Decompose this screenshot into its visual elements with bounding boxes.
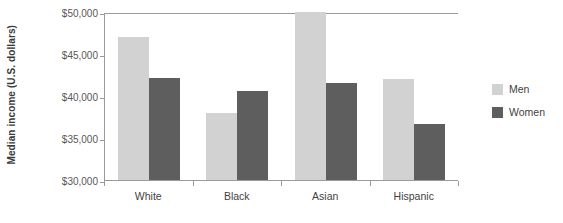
y-axis-tick-mark <box>100 140 105 141</box>
bar-black-men <box>206 113 237 180</box>
bar-white-men <box>118 37 149 180</box>
legend-swatch-men <box>492 84 503 95</box>
bar-black-women <box>237 91 268 180</box>
bar-group-asian <box>282 14 370 180</box>
y-axis-tick-label: $35,000 <box>36 134 98 145</box>
bar-group-white <box>105 14 193 180</box>
legend-swatch-women <box>492 107 503 118</box>
x-axis-tick-mark <box>281 181 282 186</box>
x-axis-label-asian: Asian <box>281 190 370 202</box>
legend-label: Men <box>509 83 529 95</box>
legend-item-women: Women <box>492 106 545 118</box>
bar-hispanic-men <box>383 79 414 180</box>
y-axis-title: Median income (U.S. dollars) <box>2 0 20 190</box>
y-axis-tick-label: $45,000 <box>36 50 98 61</box>
y-axis-tick-label: $30,000 <box>36 176 98 187</box>
bar-asian-women <box>326 83 357 180</box>
legend: MenWomen <box>492 83 545 118</box>
x-axis-label-white: White <box>104 190 193 202</box>
y-axis-tick-label: $50,000 <box>36 8 98 19</box>
y-axis-tick-labels: $30,000$35,000$40,000$45,000$50,000 <box>32 0 98 223</box>
x-axis-tick-mark <box>104 181 105 186</box>
bar-group-hispanic <box>370 14 458 180</box>
x-axis-label-hispanic: Hispanic <box>370 190 459 202</box>
bar-group-black <box>193 14 281 180</box>
y-axis-tick-mark <box>100 98 105 99</box>
bar-hispanic-women <box>414 124 445 180</box>
y-axis-tick-mark <box>100 14 105 15</box>
x-axis-tick-mark <box>193 181 194 186</box>
legend-item-men: Men <box>492 83 545 95</box>
y-axis-tick-label: $40,000 <box>36 92 98 103</box>
x-axis-tick-mark <box>458 181 459 186</box>
x-axis-tick-mark <box>370 181 371 186</box>
bar-white-women <box>149 78 180 180</box>
legend-label: Women <box>509 106 545 118</box>
x-axis-label-black: Black <box>193 190 282 202</box>
bar-asian-men <box>295 12 326 180</box>
bar-chart: Median income (U.S. dollars) $30,000$35,… <box>0 0 563 223</box>
x-axis-category-labels: WhiteBlackAsianHispanic <box>104 190 458 202</box>
plot-area <box>104 13 458 181</box>
bar-series-container <box>105 14 458 180</box>
x-axis: WhiteBlackAsianHispanic <box>104 181 458 211</box>
y-axis-tick-mark <box>100 56 105 57</box>
